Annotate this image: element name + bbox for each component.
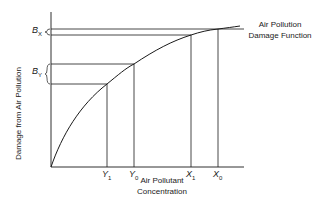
bx-label: BX bbox=[32, 25, 42, 36]
x-axis-label-line2: Concentration bbox=[122, 186, 202, 197]
x0-tick-label: X0 bbox=[213, 169, 222, 180]
curve-label: Air Pollution Damage Function bbox=[245, 19, 315, 41]
x-axis-label: Air Pollutant Concentration bbox=[122, 175, 202, 197]
x-axis-label-line1: Air Pollutant bbox=[122, 175, 202, 186]
bx-brace bbox=[45, 29, 50, 35]
curve-label-line1: Air Pollution bbox=[245, 19, 315, 30]
damage-function-curve bbox=[51, 26, 240, 167]
y-axis-label: Damage from Air Pollution bbox=[14, 67, 23, 160]
by-label: BY bbox=[32, 66, 42, 77]
curve-label-line2: Damage Function bbox=[245, 30, 315, 41]
y1-tick-label: Y1 bbox=[102, 169, 111, 180]
by-brace bbox=[45, 64, 50, 84]
